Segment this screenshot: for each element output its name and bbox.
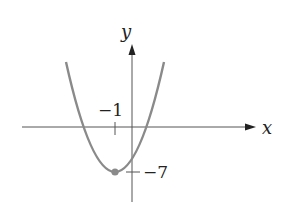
y-axis-arrow-icon (129, 44, 136, 55)
y-tick-label: −7 (143, 162, 168, 182)
x-tick-label: −1 (98, 100, 123, 120)
parabola-graph: y x −1 −7 (0, 0, 284, 220)
vertex-point (111, 168, 118, 175)
graph-canvas: y x −1 −7 (0, 0, 284, 220)
x-axis-arrow-icon (245, 124, 256, 131)
x-axis-label: x (262, 117, 272, 138)
y-axis-label: y (120, 21, 132, 42)
